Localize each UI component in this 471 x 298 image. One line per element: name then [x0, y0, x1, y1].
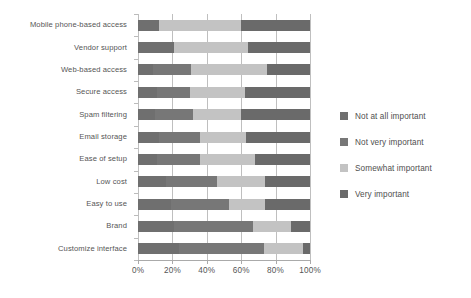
- bar-segment: [138, 64, 153, 75]
- bar-segment: [138, 42, 174, 53]
- x-axis-tick: [276, 260, 277, 264]
- bar-segment: [229, 199, 265, 210]
- x-axis-tick-label: 100%: [290, 266, 330, 275]
- bar-segment: [217, 176, 265, 187]
- bar-segment: [138, 243, 179, 254]
- bar-segment: [138, 109, 155, 120]
- bar-segment: [153, 64, 191, 75]
- legend-swatch-icon: [340, 190, 348, 198]
- bar-segment: [265, 176, 310, 187]
- bar-segment: [265, 199, 310, 210]
- legend-item: Not at all important: [340, 103, 468, 129]
- x-axis-tick: [172, 260, 173, 264]
- bar-segment: [157, 87, 190, 98]
- bar-segment: [138, 199, 171, 210]
- bar-segment: [241, 109, 310, 120]
- legend-item: Very important: [340, 181, 468, 207]
- bar-segment: [255, 154, 310, 165]
- bar-segment: [200, 132, 246, 143]
- y-axis-tick: [134, 171, 138, 172]
- bar-segment: [166, 176, 218, 187]
- x-axis-tick: [241, 260, 242, 264]
- bar-segment: [159, 20, 242, 31]
- bar-row: [138, 87, 310, 98]
- y-axis-tick: [134, 81, 138, 82]
- legend-label: Not very important: [355, 138, 424, 147]
- bar-row: [138, 199, 310, 210]
- bar-segment: [179, 243, 263, 254]
- gridline: [310, 14, 311, 260]
- bar-segment: [253, 221, 291, 232]
- y-axis-tick: [134, 215, 138, 216]
- category-label: Vendor support: [74, 43, 127, 52]
- bar-segment: [171, 199, 229, 210]
- bar-segment: [245, 87, 310, 98]
- legend-swatch-icon: [340, 138, 348, 146]
- bar-segment: [138, 154, 157, 165]
- bar-segment: [159, 132, 200, 143]
- category-label: Secure access: [76, 87, 127, 96]
- legend-item: Somewhat important: [340, 155, 468, 181]
- bar-row: [138, 176, 310, 187]
- x-axis-tick: [207, 260, 208, 264]
- y-axis-tick: [134, 238, 138, 239]
- category-label: Brand: [106, 221, 127, 230]
- y-axis-tick: [134, 193, 138, 194]
- bar-row: [138, 109, 310, 120]
- legend-label: Somewhat important: [355, 164, 432, 173]
- x-axis-tick: [138, 260, 139, 264]
- y-axis-tick: [134, 126, 138, 127]
- bar-segment: [191, 64, 267, 75]
- bar-segment: [138, 221, 174, 232]
- bar-segment: [241, 20, 310, 31]
- bar-segment: [246, 132, 310, 143]
- bar-segment: [190, 87, 245, 98]
- bar-row: [138, 221, 310, 232]
- x-axis-line: [138, 260, 311, 261]
- bar-row: [138, 243, 310, 254]
- bar-segment: [138, 132, 159, 143]
- chart-legend: Not at all importantNot very importantSo…: [340, 103, 468, 207]
- category-label: Web-based access: [61, 65, 127, 74]
- category-label: Email storage: [79, 132, 127, 141]
- legend-swatch-icon: [340, 164, 348, 172]
- bar-row: [138, 42, 310, 53]
- category-label: Easy to use: [86, 199, 127, 208]
- x-axis-tick: [310, 260, 311, 264]
- bar-segment: [138, 176, 166, 187]
- bar-row: [138, 64, 310, 75]
- bar-segment: [155, 109, 193, 120]
- legend-swatch-icon: [340, 112, 348, 120]
- bar-segment: [174, 42, 248, 53]
- bar-segment: [303, 243, 310, 254]
- bar-segment: [174, 221, 253, 232]
- bar-segment: [157, 154, 200, 165]
- y-axis-tick: [134, 36, 138, 37]
- bar-segment: [267, 64, 310, 75]
- category-label: Spam filtering: [79, 110, 127, 119]
- bar-row: [138, 20, 310, 31]
- bar-segment: [248, 42, 310, 53]
- legend-label: Not at all important: [355, 112, 426, 121]
- plot-area: [138, 14, 310, 260]
- category-label: Mobile phone-based access: [30, 20, 127, 29]
- bar-row: [138, 154, 310, 165]
- stacked-bar-chart: Mobile phone-based accessVendor supportW…: [0, 0, 471, 298]
- bar-segment: [193, 109, 241, 120]
- bar-segment: [264, 243, 304, 254]
- y-axis-tick: [134, 14, 138, 15]
- category-label: Ease of setup: [79, 154, 127, 163]
- bar-segment: [138, 20, 159, 31]
- legend-label: Very important: [355, 190, 409, 199]
- y-axis-tick: [134, 103, 138, 104]
- bar-row: [138, 132, 310, 143]
- bar-segment: [200, 154, 255, 165]
- category-label: Low cost: [96, 177, 127, 186]
- bar-segment: [138, 87, 157, 98]
- y-axis-tick: [134, 260, 138, 261]
- category-label: Customize interface: [58, 244, 127, 253]
- y-axis-tick: [134, 148, 138, 149]
- y-axis-category-labels: Mobile phone-based accessVendor supportW…: [0, 14, 131, 260]
- bar-segment: [291, 221, 310, 232]
- legend-item: Not very important: [340, 129, 468, 155]
